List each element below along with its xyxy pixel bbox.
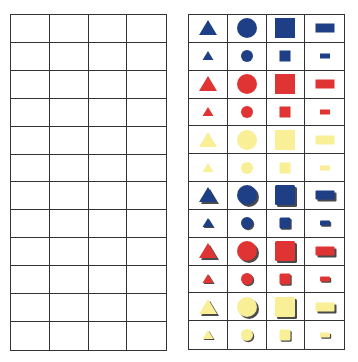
shape-cell xyxy=(228,71,267,99)
empty-cell xyxy=(89,238,128,266)
blue-large-square-icon xyxy=(267,182,303,208)
shape-cell xyxy=(305,210,344,238)
yellow-small-triangle-icon xyxy=(190,322,226,348)
red-small-circle-icon xyxy=(229,266,265,292)
shape-cell xyxy=(305,238,344,266)
shape-cell xyxy=(228,321,267,349)
empty-cell xyxy=(89,182,128,210)
shape-cell xyxy=(228,182,267,210)
red-small-circle-icon xyxy=(229,99,265,125)
empty-cell xyxy=(127,99,166,127)
yellow-large-rectangle-icon xyxy=(307,127,343,153)
empty-cell xyxy=(11,294,50,322)
yellow-small-rectangle-icon xyxy=(307,322,343,348)
shape-cell xyxy=(189,154,228,182)
blue-large-circle-icon xyxy=(229,182,265,208)
yellow-large-triangle-icon xyxy=(190,127,226,153)
shape-cell xyxy=(189,321,228,349)
shape-cell xyxy=(305,154,344,182)
empty-cell xyxy=(50,71,89,99)
shape-cell xyxy=(305,321,344,349)
empty-cell xyxy=(127,43,166,71)
red-large-rectangle-icon xyxy=(307,238,343,264)
empty-cell xyxy=(127,71,166,99)
empty-cell xyxy=(127,127,166,155)
yellow-large-square-icon xyxy=(267,127,303,153)
empty-cell xyxy=(127,238,166,266)
shape-cell xyxy=(228,266,267,294)
empty-cell xyxy=(50,210,89,238)
blue-large-triangle-icon xyxy=(190,182,226,208)
red-small-square-icon xyxy=(267,266,303,292)
empty-cell xyxy=(50,155,89,183)
red-large-rectangle-icon xyxy=(307,71,343,97)
blue-small-triangle-icon xyxy=(190,43,226,69)
red-small-triangle-icon xyxy=(190,99,226,125)
shape-cell xyxy=(267,43,306,71)
empty-cell xyxy=(11,210,50,238)
empty-cell xyxy=(11,71,50,99)
empty-cell xyxy=(50,322,89,350)
shape-cell xyxy=(228,15,267,43)
empty-cell xyxy=(127,182,166,210)
shape-cell xyxy=(267,154,306,182)
shape-cell xyxy=(228,43,267,71)
blue-small-rectangle-icon xyxy=(307,43,343,69)
empty-cell xyxy=(127,266,166,294)
blue-large-rectangle-icon xyxy=(307,15,343,41)
empty-cell xyxy=(50,266,89,294)
empty-cell xyxy=(89,15,128,43)
red-large-square-icon xyxy=(267,71,303,97)
shape-cell xyxy=(267,126,306,154)
empty-cell xyxy=(127,210,166,238)
blue-small-circle-icon xyxy=(229,210,265,236)
empty-cell xyxy=(11,182,50,210)
blue-large-circle-icon xyxy=(229,15,265,41)
empty-cell xyxy=(89,322,128,350)
shape-cell xyxy=(189,15,228,43)
empty-cell xyxy=(11,127,50,155)
shape-cell xyxy=(189,71,228,99)
shape-cell xyxy=(305,43,344,71)
yellow-small-rectangle-icon xyxy=(307,155,343,181)
empty-cell xyxy=(50,99,89,127)
shape-cell xyxy=(305,126,344,154)
yellow-small-square-icon xyxy=(267,322,303,348)
empty-grid xyxy=(10,14,167,351)
shape-cell xyxy=(267,15,306,43)
yellow-small-square-icon xyxy=(267,155,303,181)
yellow-large-rectangle-icon xyxy=(307,294,343,320)
red-small-rectangle-icon xyxy=(307,266,343,292)
empty-cell xyxy=(127,322,166,350)
empty-cell xyxy=(89,266,128,294)
red-large-circle-icon xyxy=(229,238,265,264)
empty-cell xyxy=(89,71,128,99)
red-small-rectangle-icon xyxy=(307,99,343,125)
empty-cell xyxy=(89,127,128,155)
empty-cell xyxy=(50,238,89,266)
empty-cell xyxy=(11,266,50,294)
blue-small-square-icon xyxy=(267,43,303,69)
blue-small-square-icon xyxy=(267,210,303,236)
shape-cell xyxy=(305,182,344,210)
shapes-grid xyxy=(188,14,345,350)
shape-cell xyxy=(267,71,306,99)
empty-cell xyxy=(50,294,89,322)
yellow-small-circle-icon xyxy=(229,322,265,348)
yellow-small-circle-icon xyxy=(229,155,265,181)
empty-cell xyxy=(50,43,89,71)
red-large-triangle-icon xyxy=(190,238,226,264)
red-large-triangle-icon xyxy=(190,71,226,97)
shape-cell xyxy=(267,182,306,210)
empty-cell xyxy=(89,99,128,127)
shape-cell xyxy=(267,238,306,266)
red-large-square-icon xyxy=(267,238,303,264)
empty-cell xyxy=(11,99,50,127)
yellow-large-circle-icon xyxy=(229,294,265,320)
shape-cell xyxy=(305,266,344,294)
shape-cell xyxy=(267,266,306,294)
blue-small-triangle-icon xyxy=(190,210,226,236)
yellow-small-triangle-icon xyxy=(190,155,226,181)
yellow-large-triangle-icon xyxy=(190,294,226,320)
shape-cell xyxy=(228,99,267,127)
